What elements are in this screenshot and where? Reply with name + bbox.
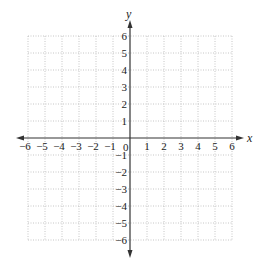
x-tick-label: −4 xyxy=(53,140,65,152)
y-tick-label: 6 xyxy=(122,30,128,42)
x-tick-label: 4 xyxy=(195,140,201,152)
x-axis-right-arrow-icon xyxy=(236,136,244,141)
y-tick-label: 3 xyxy=(122,81,128,93)
x-tick-label: 5 xyxy=(212,140,218,152)
x-tick-label: −2 xyxy=(87,140,99,152)
x-tick-label: −6 xyxy=(19,140,31,152)
y-tick-label: 2 xyxy=(122,98,128,110)
x-tick-label: −5 xyxy=(36,140,48,152)
y-tick-label: 4 xyxy=(122,64,128,76)
y-tick-label: 5 xyxy=(122,47,128,59)
x-tick-label: 3 xyxy=(178,140,184,152)
y-axis-top-arrow-icon xyxy=(128,20,133,28)
y-tick-label: 1 xyxy=(122,115,128,127)
y-tick-label: −4 xyxy=(115,200,127,212)
x-tick-label: 2 xyxy=(161,140,167,152)
x-axis-label: x xyxy=(246,131,253,145)
y-tick-label: −5 xyxy=(115,217,127,229)
x-tick-label: −1 xyxy=(104,140,116,152)
y-tick-label: −6 xyxy=(115,234,127,246)
coordinate-plane: x y −6−5−4−3−2−1123456 654321−1−2−3−4−5−… xyxy=(0,0,268,268)
x-tick-label: −3 xyxy=(70,140,82,152)
y-axis-bottom-arrow-icon xyxy=(128,250,133,258)
y-tick-label: −2 xyxy=(115,166,127,178)
x-tick-label: 1 xyxy=(144,140,150,152)
x-tick-label: 6 xyxy=(229,140,235,152)
y-axis-label: y xyxy=(125,7,132,21)
origin-label: 0 xyxy=(123,141,129,153)
y-tick-label: −3 xyxy=(115,183,127,195)
